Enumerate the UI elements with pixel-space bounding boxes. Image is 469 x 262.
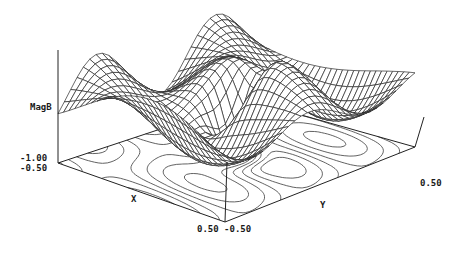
front-edge-line xyxy=(225,162,227,222)
y-axis-label: Y xyxy=(320,200,326,210)
floor-edge-x xyxy=(58,163,225,222)
x-max-y-min-tick: 0.50 -0.50 xyxy=(197,224,251,234)
floor-edge-y xyxy=(225,147,415,222)
z-axis-line-right xyxy=(415,117,424,147)
surface-mesh xyxy=(58,14,415,166)
y-max-tick: 0.50 xyxy=(420,178,442,188)
z-axis-label: MagB xyxy=(30,102,52,112)
z-min-tick: -1.00 xyxy=(20,153,47,163)
x-axis-label: X xyxy=(131,194,137,204)
x-min-tick: -0.50 xyxy=(20,163,47,173)
surface-plot: MagB -1.00 -0.50 X 0.50 -0.50 Y 0.50 xyxy=(0,0,469,262)
